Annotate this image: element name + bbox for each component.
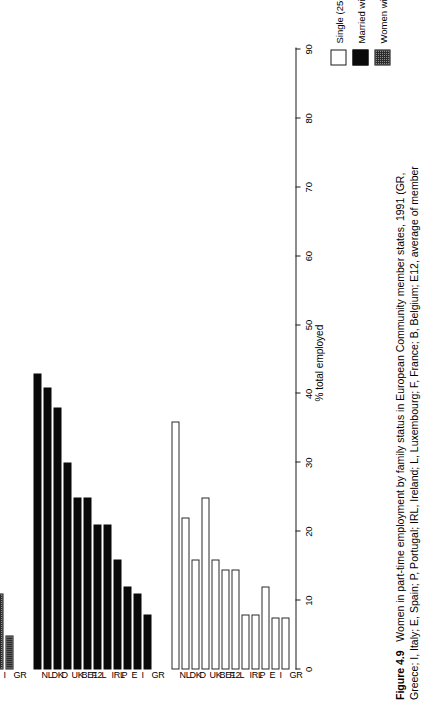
figure-number: Figure 4.9 bbox=[394, 650, 406, 700]
legend-swatch-single bbox=[330, 49, 346, 65]
legend-swatch-children bbox=[374, 49, 390, 65]
caption-text-1: Women in part-time employment by family … bbox=[394, 173, 406, 642]
legend-swatch-married bbox=[352, 49, 368, 65]
caption-line-2: Greece; I, Italy; E, Spain; P, Portugal;… bbox=[408, 166, 421, 700]
legend-label-single: Single (25+) without children bbox=[333, 0, 344, 43]
legend-label-married: Married without children bbox=[355, 0, 366, 43]
figure-caption: Figure 4.9 Women in part-time employment… bbox=[394, 166, 421, 700]
caption-line-1: Figure 4.9 Women in part-time employment… bbox=[394, 166, 408, 700]
legend-label-children: Women with children bbox=[377, 0, 388, 43]
